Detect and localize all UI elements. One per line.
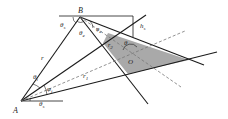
label-point-b: B bbox=[78, 6, 83, 15]
label-r: r bbox=[41, 54, 44, 62]
label-theta-e: θe bbox=[79, 29, 85, 38]
label-theta-center: θ bbox=[124, 39, 128, 47]
shaded-region bbox=[103, 33, 189, 74]
arc-theta-i bbox=[33, 84, 40, 88]
label-theta-i: θi bbox=[33, 73, 38, 82]
geometry-diagram: B A O r r1 r2 hs θs θe φe θ θi φi θs bbox=[0, 0, 228, 119]
label-point-o: O bbox=[128, 58, 133, 66]
arc-theta-s-top bbox=[73, 17, 76, 23]
label-point-a: A bbox=[12, 106, 18, 115]
label-phi-e: φe bbox=[96, 26, 102, 34]
label-r1: r1 bbox=[83, 72, 88, 81]
label-theta-s-top: θs bbox=[60, 21, 65, 30]
label-hs: hs bbox=[140, 22, 146, 31]
label-phi-i: φi bbox=[47, 85, 53, 94]
